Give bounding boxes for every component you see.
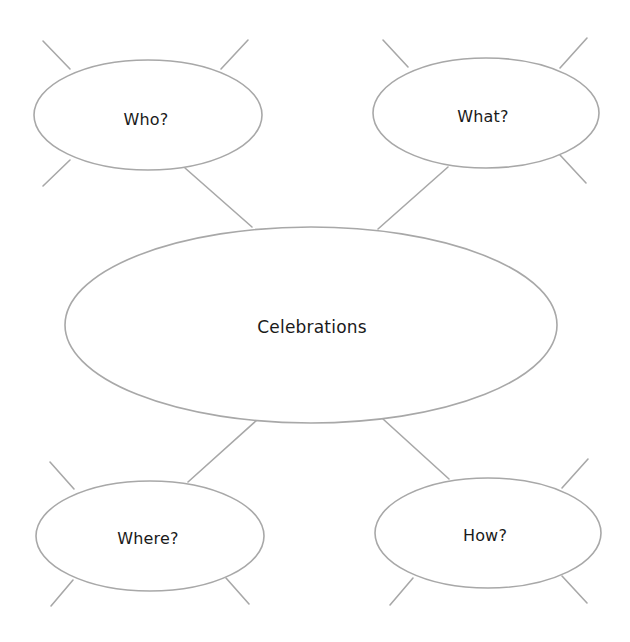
node-where-label: Where?: [117, 529, 179, 548]
spoke-where-bottom-left: [51, 580, 73, 606]
spoke-who-top-right: [221, 40, 248, 69]
spoke-how-bottom-left: [390, 578, 413, 605]
node-who-label: Who?: [123, 110, 168, 129]
spoke-what-top-right: [560, 38, 587, 68]
spoke-how-bottom-right: [562, 576, 587, 603]
connector-who-center: [185, 168, 252, 227]
spoke-what-bottom-right: [560, 155, 586, 183]
spoke-who-top-left: [43, 41, 70, 69]
node-how-label: How?: [463, 526, 507, 545]
node-center-label: Celebrations: [257, 317, 367, 337]
connector-how-center: [383, 419, 449, 479]
spoke-what-top-left: [383, 40, 408, 67]
spoke-where-top-left: [50, 462, 74, 489]
connector-what-center: [378, 167, 448, 229]
spoke-how-top-right: [562, 459, 588, 488]
spoke-where-bottom-right: [226, 578, 249, 604]
node-what-label: What?: [457, 107, 509, 126]
connector-where-center: [188, 420, 257, 482]
spoke-who-bottom-left: [43, 160, 70, 186]
